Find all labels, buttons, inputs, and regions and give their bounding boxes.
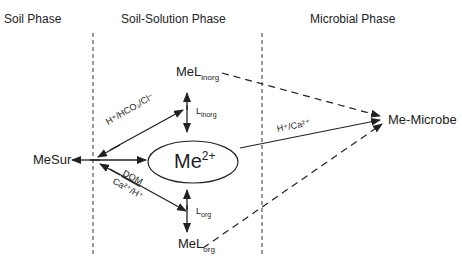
diagram-lines xyxy=(0,0,462,263)
soil-solution-phase-header: Soil-Solution Phase xyxy=(121,12,226,26)
me-free-node: Me2+ xyxy=(174,149,215,173)
mel-inorg-node: MeLinorg xyxy=(176,64,219,82)
microbial-phase-header: Microbial Phase xyxy=(310,12,395,26)
l-inorg-label: Linorg xyxy=(196,106,217,118)
l-org-label: Lorg xyxy=(196,206,211,218)
me-microbe-node: Me-Microbe xyxy=(388,112,457,127)
metal-speciation-diagram: Soil Phase Soil-Solution Phase Microbial… xyxy=(0,0,462,263)
me-sur-node: MeSur xyxy=(33,152,71,167)
soil-phase-header: Soil Phase xyxy=(4,12,61,26)
mel-org-node: MeLorg xyxy=(178,236,215,254)
